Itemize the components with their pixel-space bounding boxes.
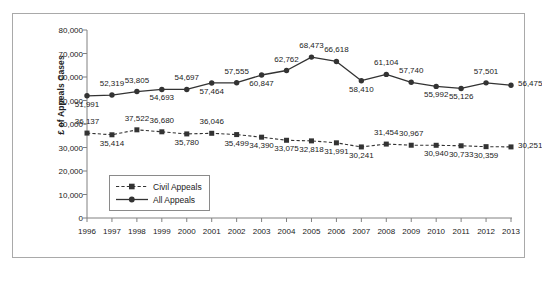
data-point-label: 61,104 xyxy=(374,58,398,67)
data-point-marker xyxy=(234,132,239,137)
data-point-label: 60,847 xyxy=(249,79,273,88)
data-point-marker xyxy=(459,143,464,148)
data-point-label: 58,410 xyxy=(349,85,373,94)
y-axis-tick-label: 60,000 xyxy=(59,73,83,82)
data-point-marker xyxy=(334,59,339,64)
data-point-marker xyxy=(359,78,364,83)
data-point-marker xyxy=(284,138,289,143)
x-axis-tick-label: 2008 xyxy=(377,227,395,236)
x-axis-tick-label: 2009 xyxy=(402,227,420,236)
data-point-label: 35,780 xyxy=(175,138,199,147)
solid-line-swatch-icon xyxy=(115,194,149,205)
data-point-label: 32,818 xyxy=(299,145,323,154)
x-axis-tick-label: 2004 xyxy=(278,227,296,236)
data-point-label: 51,991 xyxy=(75,100,99,109)
data-point-label: 37,522 xyxy=(125,114,149,123)
data-point-marker xyxy=(184,87,189,92)
data-point-marker xyxy=(509,144,514,149)
data-point-label: 35,414 xyxy=(100,139,124,148)
x-axis-tick-label: 1996 xyxy=(78,227,96,236)
data-point-marker xyxy=(359,144,364,149)
data-point-label: 36,680 xyxy=(150,116,174,125)
x-axis-tick-label: 1997 xyxy=(103,227,121,236)
data-point-label: 57,555 xyxy=(224,67,248,76)
data-point-label: 52,319 xyxy=(100,79,124,88)
y-axis-tick-label: 70,000 xyxy=(59,49,83,58)
y-axis-tick-label: 0 xyxy=(79,214,83,223)
x-axis-tick-label: 2010 xyxy=(427,227,445,236)
data-point-marker xyxy=(134,89,139,94)
x-axis-tick-label: 2011 xyxy=(453,227,470,236)
y-axis-tick-label: 30,000 xyxy=(59,143,83,152)
data-point-marker xyxy=(259,72,264,77)
legend-label-all-appeals: All Appeals xyxy=(153,195,195,205)
data-point-marker xyxy=(209,131,214,136)
data-point-label: 68,473 xyxy=(299,41,323,50)
data-point-label: 56,475 xyxy=(518,79,542,88)
data-point-marker xyxy=(259,135,264,140)
x-axis-tick-label: 1998 xyxy=(128,227,146,236)
legend-label-civil-appeals: Civil Appeals xyxy=(153,182,202,192)
data-point-label: 35,499 xyxy=(224,139,248,148)
data-point-marker xyxy=(309,54,314,59)
data-point-marker xyxy=(508,83,513,88)
data-point-marker xyxy=(184,131,189,136)
data-point-label: 57,501 xyxy=(474,67,498,76)
x-axis-tick-label: 2002 xyxy=(228,227,246,236)
data-point-label: 57,740 xyxy=(399,66,423,75)
data-point-marker xyxy=(309,138,314,143)
data-point-marker xyxy=(159,87,164,92)
data-point-marker xyxy=(409,143,414,148)
chart-legend: Civil Appeals All Appeals xyxy=(109,175,210,211)
data-point-label: 66,618 xyxy=(324,45,348,54)
data-point-label: 30,940 xyxy=(424,149,448,158)
data-point-label: 36,137 xyxy=(75,117,99,126)
data-point-marker xyxy=(159,129,164,134)
legend-item-all-appeals[interactable]: All Appeals xyxy=(115,193,202,206)
data-point-label: 36,046 xyxy=(199,117,223,126)
legend-item-civil-appeals[interactable]: Civil Appeals xyxy=(115,180,202,193)
data-point-label: 31,991 xyxy=(324,147,348,156)
x-axis-tick-label: 1999 xyxy=(153,227,171,236)
data-point-marker xyxy=(134,127,139,132)
x-axis-tick-label: 2003 xyxy=(253,227,271,236)
data-point-label: 30,359 xyxy=(474,151,498,160)
x-axis-tick-label: 2005 xyxy=(303,227,321,236)
data-point-marker xyxy=(234,80,239,85)
data-point-marker xyxy=(284,68,289,73)
data-point-label: 31,454 xyxy=(374,128,398,137)
data-point-label: 53,805 xyxy=(125,76,149,85)
data-point-label: 54,697 xyxy=(175,73,199,82)
data-point-marker xyxy=(384,142,389,147)
y-axis-tick-label: 10,000 xyxy=(59,190,83,199)
x-axis-tick-label: 2000 xyxy=(178,227,196,236)
dashed-line-swatch-icon xyxy=(115,181,149,192)
data-point-marker xyxy=(109,132,114,137)
data-point-marker xyxy=(409,80,414,85)
y-axis-tick-labels: 010,00020,00030,00040,00050,00060,00070,… xyxy=(37,14,83,257)
y-axis-tick-label: 20,000 xyxy=(59,167,83,176)
data-point-marker xyxy=(84,93,89,98)
data-point-label: 30,967 xyxy=(399,129,423,138)
chart-frame: £ of Appeals Cases 010,00020,00030,00040… xyxy=(12,13,525,258)
data-point-label: 55,126 xyxy=(449,92,473,101)
data-point-marker xyxy=(484,144,489,149)
data-point-label: 54,693 xyxy=(150,93,174,102)
data-point-label: 30,733 xyxy=(449,150,473,159)
data-point-marker xyxy=(209,80,214,85)
data-point-label: 30,241 xyxy=(349,151,373,160)
data-point-marker xyxy=(334,140,339,145)
data-point-marker xyxy=(434,143,439,148)
y-axis-tick-label: 80,000 xyxy=(59,26,83,35)
data-point-marker xyxy=(85,131,90,136)
x-axis-tick-label: 2006 xyxy=(328,227,346,236)
x-axis-tick-label: 2007 xyxy=(352,227,370,236)
data-point-marker xyxy=(433,84,438,89)
data-point-label: 62,762 xyxy=(274,55,298,64)
data-point-marker xyxy=(458,86,463,91)
data-point-label: 33,075 xyxy=(274,144,298,153)
data-point-marker xyxy=(109,92,114,97)
data-point-label: 34,390 xyxy=(249,141,273,150)
data-point-marker xyxy=(384,72,389,77)
data-point-marker xyxy=(483,80,488,85)
